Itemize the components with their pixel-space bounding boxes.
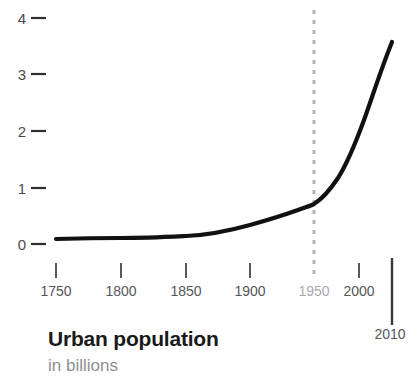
y-axis-label-0: 0 — [10, 236, 26, 253]
y-axis-label-2: 2 — [10, 123, 26, 140]
x-axis-label-2000: 2000 — [329, 283, 389, 299]
chart-subtitle: in billions — [48, 356, 118, 376]
y-axis-ticks — [31, 18, 46, 244]
chart-title: Urban population — [48, 327, 219, 351]
population-curve — [56, 42, 392, 239]
y-axis-label-3: 3 — [10, 66, 26, 83]
x-axis-label-1800: 1800 — [91, 283, 151, 299]
y-axis-label-4: 4 — [10, 10, 26, 27]
x-axis-label-1900: 1900 — [220, 283, 280, 299]
chart-container: 4 3 2 1 0 1750 1800 1850 1900 1950 2000 … — [0, 0, 417, 382]
x-axis-label-1750: 1750 — [26, 283, 86, 299]
chart-plot-area — [0, 0, 417, 382]
x-axis-label-1850: 1850 — [156, 283, 216, 299]
y-axis-label-1: 1 — [10, 180, 26, 197]
x-axis-label-2010: 2010 — [363, 326, 417, 342]
